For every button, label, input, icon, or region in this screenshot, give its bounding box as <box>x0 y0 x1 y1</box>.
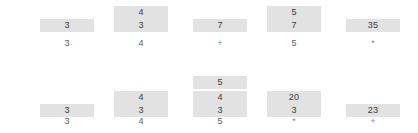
stack-cell: 3 <box>40 19 94 32</box>
operand-token: 3 <box>40 38 94 48</box>
stack-column: 3455 <box>193 66 247 133</box>
operand-token: 5 <box>267 38 321 48</box>
operand-token: 3 <box>40 116 94 126</box>
stack-boxes: 3 <box>40 19 94 32</box>
stack-column: 344 <box>114 0 168 66</box>
stack-column: 755 <box>267 0 321 66</box>
stack-cell: 20 <box>267 91 321 104</box>
stack-cell: 4 <box>114 91 168 104</box>
stack-cell: 35 <box>346 19 400 32</box>
stack-cell: 5 <box>267 6 321 19</box>
stack-column: 7+ <box>193 0 247 66</box>
stack-cell: 7 <box>267 19 321 32</box>
stack-cell: 4 <box>193 91 247 104</box>
stack-boxes: 75 <box>267 4 321 32</box>
stack-cell: 4 <box>114 6 168 19</box>
operator-token: + <box>346 116 400 126</box>
stack-boxes: 7 <box>193 19 247 32</box>
operand-token: 5 <box>193 116 247 126</box>
expression-trace-top-row: 333447+75535* <box>0 0 418 66</box>
operand-token: 4 <box>114 38 168 48</box>
stack-column: 23+ <box>346 66 400 133</box>
stack-boxes: 34 <box>114 89 168 117</box>
stack-column: 344 <box>114 66 168 133</box>
stack-boxes: 320 <box>267 89 321 117</box>
stack-boxes: 345 <box>193 74 247 117</box>
stack-column: 33 <box>40 0 94 66</box>
stack-column: 33 <box>40 66 94 133</box>
operator-token: * <box>346 38 400 48</box>
operand-token: 4 <box>114 116 168 126</box>
stack-column: 35* <box>346 0 400 66</box>
stack-cell: 7 <box>193 19 247 32</box>
stack-column: 320* <box>267 66 321 133</box>
expression-trace-bottom-row: 333443455320*23+ <box>0 66 418 133</box>
operator-token: * <box>267 116 321 126</box>
stack-cell: 3 <box>114 19 168 32</box>
operator-token: + <box>193 38 247 48</box>
stack-boxes: 34 <box>114 4 168 32</box>
stack-cell: 5 <box>193 76 247 89</box>
stack-boxes: 35 <box>346 19 400 32</box>
